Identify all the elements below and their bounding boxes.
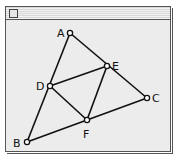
label-c: C <box>152 92 160 105</box>
point-b[interactable] <box>24 139 29 144</box>
label-f: F <box>83 128 89 141</box>
triangle-diagram: A E D C F B <box>0 0 181 162</box>
label-a: A <box>57 27 65 40</box>
segments <box>27 33 147 142</box>
segment-de <box>50 66 107 86</box>
segment-ef <box>87 66 107 120</box>
point-a[interactable] <box>67 30 72 35</box>
point-c[interactable] <box>144 95 149 100</box>
segment-df <box>50 86 87 120</box>
label-e: E <box>112 60 119 73</box>
label-d: D <box>36 80 44 93</box>
label-b: B <box>13 137 21 150</box>
point-d[interactable] <box>47 83 52 88</box>
point-e[interactable] <box>104 63 109 68</box>
point-f[interactable] <box>84 117 89 122</box>
